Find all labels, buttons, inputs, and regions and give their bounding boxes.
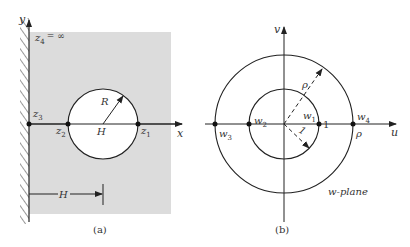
- w2-label: w2: [254, 115, 267, 129]
- x-axis-label: x: [177, 127, 184, 140]
- caption-a: (a): [93, 224, 107, 235]
- w4-label: w4: [357, 111, 371, 125]
- outer-radius-label: ρ: [301, 79, 308, 90]
- panel-a: y x z4= ∞ z3 z2 z1 R H H (a): [18, 13, 184, 235]
- z2-point: [66, 122, 71, 127]
- outer-point-label: ρ: [355, 128, 362, 139]
- figure-canvas: y x z4= ∞ z3 z2 z1 R H H (a) v u w3 w2 w…: [0, 0, 410, 247]
- radius-label: R: [100, 96, 109, 107]
- inner-point-label: 1: [323, 119, 329, 130]
- w2-point: [247, 122, 252, 127]
- caption-b: (b): [275, 224, 289, 235]
- w4-point: [351, 122, 356, 127]
- panel-b: v u w3 w2 w1 w4 1 ρ 1 ρ w-plane (b): [205, 23, 398, 235]
- z3-point: [27, 122, 32, 127]
- w3-point: [213, 122, 218, 127]
- w-plane-label: w-plane: [328, 186, 368, 197]
- u-axis-label: u: [391, 126, 398, 139]
- distance-label: H: [58, 189, 68, 200]
- v-axis-label: v: [274, 23, 281, 36]
- center-label: H: [96, 126, 106, 137]
- w3-label: w3: [219, 128, 232, 142]
- y-axis-label: y: [18, 13, 26, 26]
- wall-hatching: [20, 18, 29, 224]
- z1-point: [136, 122, 141, 127]
- w1-point: [317, 122, 322, 127]
- inner-radius-label: 1: [297, 124, 308, 137]
- w1-label: w1: [303, 110, 316, 124]
